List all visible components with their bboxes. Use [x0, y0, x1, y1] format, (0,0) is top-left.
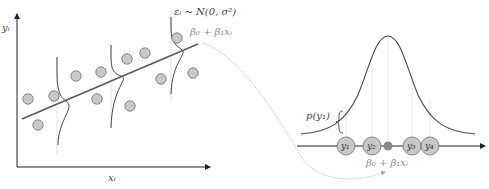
- mean-label: β₀ + β₁xᵢ: [366, 157, 408, 168]
- regression-diagram: y₁ y₂ y₃ y₄: [0, 0, 489, 189]
- regression-line: [22, 44, 198, 119]
- label-y2: y₂: [366, 141, 376, 151]
- density-label: p(y₁): [306, 110, 330, 121]
- connector-curve: [203, 43, 385, 179]
- label-y4: y₄: [424, 141, 434, 151]
- label-y1: y₁: [340, 141, 350, 151]
- label-y3: y₃: [406, 141, 416, 151]
- mean-dot: [384, 142, 393, 151]
- x-axis-label: xᵢ: [108, 172, 116, 183]
- regression-line-label: β₀ + β₁xᵢ: [190, 26, 232, 37]
- error-distribution-label: εᵢ ~ N(0, σ²): [174, 6, 236, 17]
- y-axis-label: yᵢ: [2, 22, 10, 33]
- density-brace: [336, 111, 343, 133]
